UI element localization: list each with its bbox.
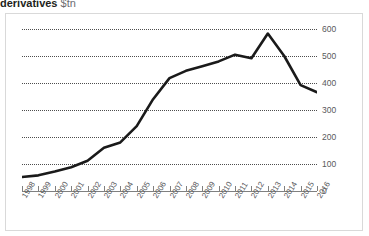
y-axis-tick-label: 200 <box>322 132 336 142</box>
series-path <box>22 34 317 177</box>
series-svg <box>22 29 317 197</box>
y-axis-tick-label: 400 <box>322 78 336 88</box>
x-axis-labels: 1998199920002001200220032004200520062007… <box>22 193 317 233</box>
data-series-line <box>22 29 317 191</box>
chart-title-main: derivatives <box>0 0 57 9</box>
y-axis-tick-label: 100 <box>322 159 336 169</box>
chart-title-unit: $tn <box>61 0 76 9</box>
chart-title: derivatives $tn <box>0 0 76 10</box>
y-axis-tick-label: 600 <box>322 24 336 34</box>
y-axis-tick-label: 500 <box>322 51 336 61</box>
y-axis-tick-label: 300 <box>322 105 336 115</box>
